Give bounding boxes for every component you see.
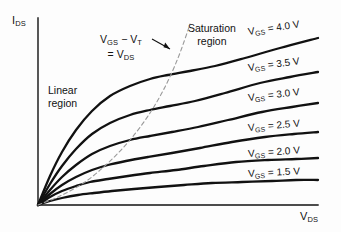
- boundary-equation-line1: VGS − VT: [100, 33, 142, 48]
- arrow-head: [164, 43, 171, 49]
- x-axis-label-subscript: DS: [307, 215, 318, 224]
- linear-region-label: Linear region: [48, 84, 77, 109]
- boundary-equation-line2: = VDS: [100, 48, 142, 63]
- saturation-region-line2: region: [188, 35, 236, 48]
- y-axis-label: IDS: [12, 14, 26, 26]
- boundary-pointer-arrow: [152, 39, 170, 49]
- saturation-region-label: Saturation region: [188, 22, 236, 47]
- mosfet-iv-characteristic-figure: IDS VDS Linear region Saturation region …: [0, 0, 341, 232]
- linear-region-line2: region: [48, 97, 77, 110]
- plot-canvas: [0, 0, 341, 232]
- saturation-boundary-equation-label: VGS − VT = VDS: [100, 33, 142, 62]
- linear-region-line1: Linear: [48, 84, 77, 97]
- y-axis-label-subscript: DS: [15, 19, 26, 28]
- x-axis-label: VDS: [300, 210, 318, 222]
- saturation-region-line1: Saturation: [188, 22, 236, 35]
